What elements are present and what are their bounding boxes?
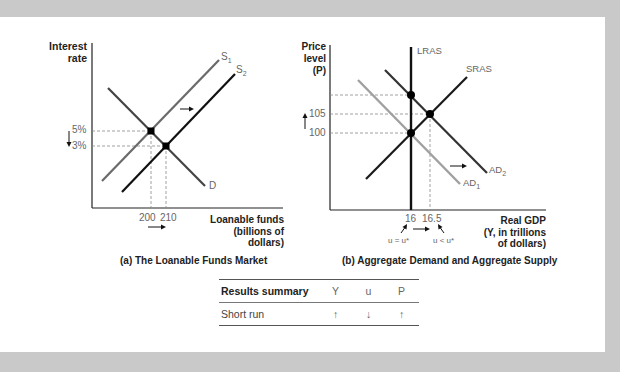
tick-16: 16 bbox=[405, 213, 416, 224]
tick-5pct: 5% bbox=[72, 124, 86, 135]
header-p: P bbox=[385, 285, 418, 297]
caption-right: (b) Aggregate Demand and Aggregate Suppl… bbox=[342, 255, 557, 266]
table-header-row: Results summary Y u P bbox=[219, 280, 419, 303]
table-row: Short run ↑ ↓ ↑ bbox=[219, 303, 419, 325]
equilibrium-point-sr bbox=[426, 110, 434, 118]
equilibrium-point-1 bbox=[148, 128, 155, 135]
cell-u-down-arrow-icon: ↓ bbox=[352, 308, 385, 320]
left-x-axis-label: Loanable funds(billions ofdollars) bbox=[205, 214, 284, 249]
label-u-equals: u = u* bbox=[388, 236, 409, 245]
right-y-axis-label: Pricelevel(P) bbox=[290, 41, 326, 77]
label-d: D bbox=[209, 180, 216, 191]
header-results-summary: Results summary bbox=[219, 285, 319, 297]
equilibrium-point-initial bbox=[407, 129, 415, 137]
label-ad1: AD1 bbox=[463, 177, 480, 190]
caption-left: (a) The Loanable Funds Market bbox=[120, 255, 267, 266]
header-u: u bbox=[352, 285, 385, 297]
tick-16-5: 16.5 bbox=[422, 213, 441, 224]
cell-y-up-arrow-icon: ↑ bbox=[319, 308, 352, 320]
tick-3pct: 3% bbox=[72, 140, 86, 151]
label-ad2: AD2 bbox=[489, 164, 506, 177]
label-s1: S1 bbox=[221, 51, 232, 64]
tick-105: 105 bbox=[309, 108, 326, 119]
sras-curve bbox=[366, 77, 467, 179]
label-sras: SRAS bbox=[466, 63, 492, 74]
tick-210: 210 bbox=[160, 212, 177, 223]
tick-200: 200 bbox=[139, 212, 156, 223]
equilibrium-point-2 bbox=[163, 143, 170, 150]
header-y: Y bbox=[319, 285, 352, 297]
label-s2: S2 bbox=[236, 64, 247, 77]
results-summary-table: Results summary Y u P Short run ↑ ↓ ↑ bbox=[219, 279, 419, 326]
right-x-axis-label: Real GDP(Y, in trillionsof dollars) bbox=[460, 215, 546, 250]
left-y-axis-label: Interestrate bbox=[40, 40, 87, 64]
row-label-short-run: Short run bbox=[219, 308, 319, 320]
cell-p-up-arrow-icon: ↑ bbox=[385, 308, 418, 320]
demand-curve-d bbox=[108, 88, 205, 186]
label-lras: LRAS bbox=[417, 45, 442, 56]
supply-curve-s2 bbox=[122, 74, 235, 192]
label-u-less: u < u* bbox=[433, 236, 454, 245]
tick-100: 100 bbox=[309, 127, 326, 138]
loanable-funds-chart bbox=[67, 43, 284, 230]
ad-as-chart bbox=[303, 45, 547, 233]
supply-curve-s1 bbox=[102, 60, 219, 181]
equilibrium-point-lr bbox=[407, 91, 415, 99]
